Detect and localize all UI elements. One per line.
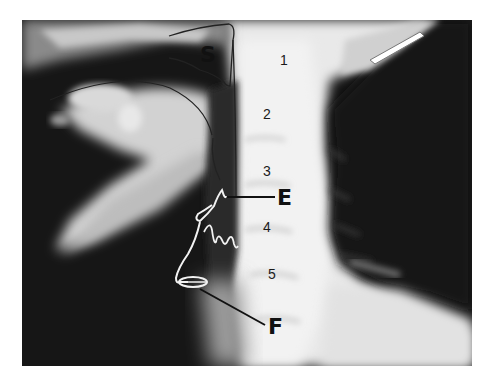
label-e: E xyxy=(277,185,292,210)
vertebra-label-1: 1 xyxy=(280,52,288,68)
vertebra-label-4: 4 xyxy=(263,219,271,235)
vertebra-label-5: 5 xyxy=(268,266,276,282)
vertebra-label-2: 2 xyxy=(263,106,271,122)
label-f: F xyxy=(268,314,283,339)
vertebra-label-3: 3 xyxy=(263,163,271,179)
label-s: S xyxy=(200,42,216,67)
radiograph-svg: S E F 1 2 3 4 5 xyxy=(0,0,496,382)
radiograph-figure: S E F 1 2 3 4 5 xyxy=(0,0,496,382)
